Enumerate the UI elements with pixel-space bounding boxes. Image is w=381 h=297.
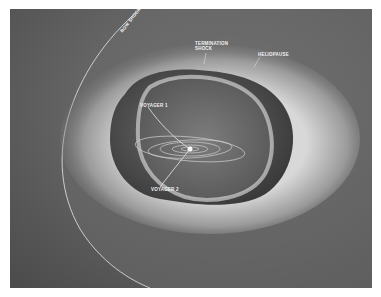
- voyager-1-label: VOYAGER 1: [140, 104, 168, 109]
- heliopause-label: HELIOPAUSE: [258, 53, 289, 58]
- heliosphere-graphic: [10, 9, 372, 288]
- heliosphere-illustration: BOW SHOCK TERMINATION SHOCK HELIOPAUSE V…: [10, 9, 372, 288]
- termination-shock-label: TERMINATION SHOCK: [195, 42, 235, 52]
- voyager-2-label: VOYAGER 2: [151, 188, 179, 193]
